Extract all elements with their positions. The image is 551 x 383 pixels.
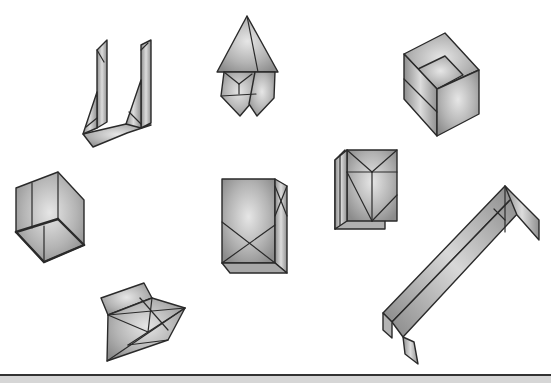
tall-box-x-fold <box>222 179 287 273</box>
cube-fold-left <box>16 172 84 262</box>
bottom-strip <box>0 376 551 383</box>
kite-fold <box>217 16 278 116</box>
long-channel-fold <box>383 186 539 364</box>
pyramid-crease-fold <box>101 283 185 361</box>
open-box-top-right <box>404 33 479 136</box>
folded-shapes-diagram <box>0 0 551 383</box>
u-shaped-fold <box>83 40 151 147</box>
double-panel-fold <box>335 150 397 229</box>
